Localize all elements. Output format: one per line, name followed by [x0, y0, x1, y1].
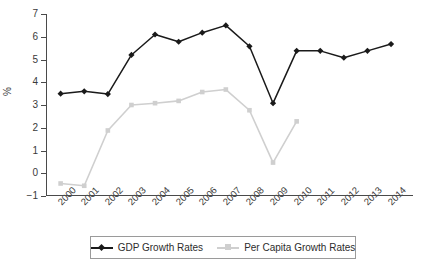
data-point-marker — [106, 128, 111, 133]
legend-diamond-marker-icon — [91, 243, 113, 252]
y-tick-label: 4 — [12, 77, 38, 87]
data-point-marker — [270, 100, 276, 106]
plot-area — [46, 14, 413, 196]
data-point-marker — [58, 91, 64, 97]
data-point-marker — [153, 101, 158, 106]
y-tick-label: 2 — [12, 123, 38, 133]
data-point-marker — [341, 55, 347, 61]
data-point-marker — [81, 88, 87, 94]
data-point-marker — [58, 181, 63, 186]
y-tick-label: 1 — [12, 146, 38, 156]
legend-square-marker-icon — [217, 243, 239, 252]
chart-legend: GDP Growth RatesPer Capita Growth Rates — [90, 236, 356, 259]
data-point-marker — [364, 48, 370, 54]
data-point-marker — [200, 90, 205, 95]
data-point-marker — [388, 41, 394, 47]
y-tick-label: 6 — [12, 32, 38, 42]
data-point-marker — [247, 108, 252, 113]
y-tick-label: 7 — [12, 9, 38, 19]
legend-item[interactable]: Per Capita Growth Rates — [217, 242, 355, 253]
data-point-marker — [317, 48, 323, 54]
y-tick-label: 3 — [12, 100, 38, 110]
legend-item[interactable]: GDP Growth Rates — [91, 242, 203, 253]
y-tick-label: 0 — [12, 168, 38, 178]
legend-item-label: Per Capita Growth Rates — [244, 242, 355, 253]
series-line — [61, 90, 297, 186]
data-point-marker — [129, 103, 134, 108]
legend-item-label: GDP Growth Rates — [118, 242, 203, 253]
data-point-marker — [82, 183, 87, 188]
data-point-marker — [176, 99, 181, 104]
data-series-layer — [46, 14, 413, 196]
data-point-marker — [224, 87, 229, 92]
data-point-marker — [294, 48, 300, 54]
y-tick-label: −1 — [12, 191, 38, 201]
data-point-marker — [176, 39, 182, 45]
data-point-marker — [199, 30, 205, 36]
data-point-marker — [294, 119, 299, 124]
data-point-marker — [271, 160, 276, 165]
y-axis-label: % — [2, 87, 13, 96]
y-tick-mark — [41, 196, 46, 197]
chart-figure: % −101234567 200020012002200320042005200… — [0, 0, 429, 269]
y-tick-label: 5 — [12, 55, 38, 65]
